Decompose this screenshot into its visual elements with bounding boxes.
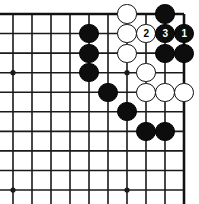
stone-black <box>155 4 174 23</box>
move-number-label: 1 <box>181 28 186 38</box>
stone-white <box>117 4 136 23</box>
move-number-label: 2 <box>143 28 148 38</box>
star-point <box>10 70 15 75</box>
stone-black <box>136 122 155 141</box>
stone-black <box>155 122 174 141</box>
stone-white <box>136 83 155 102</box>
stone-black <box>79 63 98 82</box>
star-point <box>124 70 129 75</box>
stone-black <box>98 83 117 102</box>
move-stone-black-1: 1 <box>174 24 193 43</box>
move-stone-white-2: 2 <box>136 24 155 43</box>
move-number-label: 3 <box>162 28 167 38</box>
stone-black <box>117 102 136 121</box>
star-point <box>124 187 129 192</box>
move-stone-black-3: 3 <box>155 24 174 43</box>
stone-white <box>117 24 136 43</box>
stone-black <box>155 44 174 63</box>
stone-black <box>79 24 98 43</box>
stone-white <box>155 83 174 102</box>
stone-black <box>174 44 193 63</box>
star-point <box>10 187 15 192</box>
stone-black <box>79 44 98 63</box>
stone-white <box>136 63 155 82</box>
stone-white <box>117 44 136 63</box>
stone-white <box>174 83 193 102</box>
go-diagram: 231 <box>0 0 199 204</box>
